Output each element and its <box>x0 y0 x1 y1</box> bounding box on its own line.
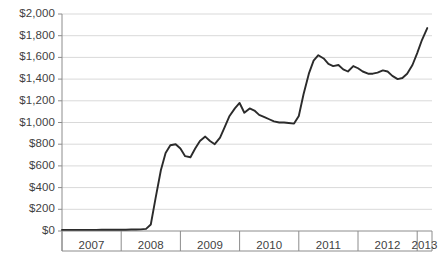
x-axis-tick-label: 2011 <box>298 240 358 252</box>
x-axis-tick-label: 2009 <box>180 240 240 252</box>
x-axis-tick-label: 2013 <box>395 240 442 252</box>
x-axis-tick-label: 2010 <box>239 240 299 252</box>
x-axis-tick-label: 2008 <box>121 240 181 252</box>
x-axis-tick-label: 2007 <box>62 240 122 252</box>
